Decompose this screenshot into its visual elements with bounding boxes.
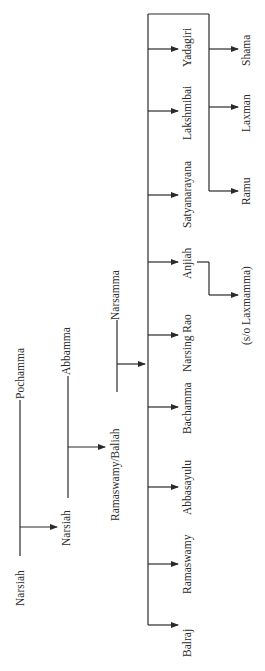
gen3-person: Ramaswamy/Baliah xyxy=(109,428,121,521)
child-anjiah: Anjiah xyxy=(181,248,193,279)
gen2-person: Narsiah xyxy=(60,510,72,546)
child-bachamma: Bachamma xyxy=(181,382,193,434)
grandchild-ramu: Ramu xyxy=(240,178,252,205)
child-narsing-rao: Narsing Rao xyxy=(181,314,193,372)
grandchild-shama: Shama xyxy=(240,35,252,66)
child-lakshmibai: Lakshmibai xyxy=(181,86,193,140)
child-yadagiri: Yadagiri xyxy=(181,28,193,67)
gen3-spouse: Narsamma xyxy=(109,270,121,320)
child-ramaswamy: Ramaswamy xyxy=(181,535,193,594)
grandchild-anjiah: (s/o Laxmamma) xyxy=(240,266,252,345)
connector-lines xyxy=(0,0,265,671)
grandchild-laxman: Laxman xyxy=(240,94,252,132)
gen1-spouse: Pochamma xyxy=(14,348,26,399)
child-balraj: Balraj xyxy=(181,629,193,657)
child-satyanarayana: Satyanarayana xyxy=(181,161,193,228)
gen1-person: Narsiah xyxy=(14,570,26,606)
gen2-spouse: Abbamma xyxy=(60,327,72,375)
child-abbasayulu: Abbasayulu xyxy=(181,460,193,515)
